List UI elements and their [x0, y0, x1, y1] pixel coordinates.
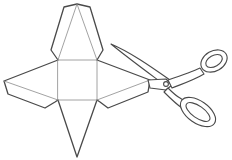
scissors-pivot — [164, 82, 169, 87]
left-face-fold — [4, 81, 58, 100]
illustration: Line illustration of a square pyramid ne… — [0, 0, 232, 160]
scissors-upper-handle — [168, 68, 204, 88]
base-square-fold — [58, 60, 97, 100]
pyramid-net — [4, 4, 150, 157]
right-face-fold — [97, 80, 150, 100]
illustration-canvas — [0, 0, 232, 160]
net-outline — [4, 4, 150, 157]
